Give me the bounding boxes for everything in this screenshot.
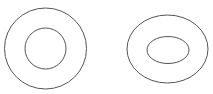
inner-circle: [25, 28, 66, 69]
inner-ellipse: [147, 37, 189, 64]
concentric-circles-figure: [5, 8, 87, 89]
diagram-canvas: [0, 0, 213, 94]
concentric-ellipses-figure: [127, 15, 208, 83]
outer-ellipse: [127, 15, 208, 83]
outer-circle: [5, 8, 87, 89]
